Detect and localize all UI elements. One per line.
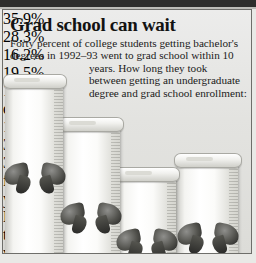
bow-knot xyxy=(29,169,41,182)
deck-text-part-2: years. How long they took between gettin… xyxy=(89,62,247,99)
top-rule xyxy=(0,0,256,7)
deck-text-part-1: Forty percent of college students gettin… xyxy=(10,37,246,62)
chart-plate: Grad school can wait Forty percent of co… xyxy=(2,9,252,254)
ribbon-bow-1-year-or-less xyxy=(4,162,66,192)
ribbon-bow-1-plus-to-3-years xyxy=(60,202,122,232)
diploma-roll-top xyxy=(174,153,242,168)
infographic-frame: Grad school can wait Forty percent of co… xyxy=(0,0,256,263)
ribbon-bow-more-than-5-years xyxy=(177,222,239,252)
diploma-roll-top xyxy=(114,167,180,182)
bow-knot xyxy=(85,209,97,222)
bow-knot xyxy=(202,229,214,242)
diploma-roll-top xyxy=(58,117,124,132)
bar-1-plus-to-3-years xyxy=(60,122,120,254)
page-title: Grad school can wait xyxy=(10,14,176,36)
diploma-roll-top xyxy=(3,74,67,89)
bow-knot xyxy=(141,235,153,248)
ribbon-bow-3-plus-to-five-years xyxy=(116,228,178,254)
